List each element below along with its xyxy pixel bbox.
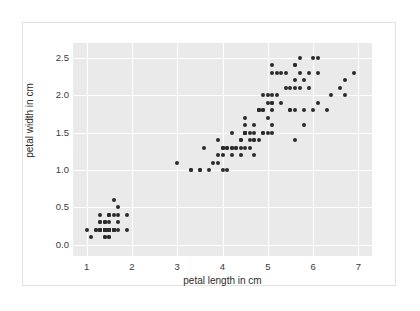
x-axis-tick-label: 3 [165,261,189,272]
data-point [343,78,347,82]
data-point [243,146,247,150]
gridline-vertical [313,43,314,256]
data-point [270,123,274,127]
data-point [230,146,234,150]
data-point [302,123,306,127]
data-point [252,153,256,157]
data-point [275,71,279,75]
data-point [107,228,111,232]
data-point [293,86,297,90]
y-axis-tick-label: 1.5 [43,128,69,138]
gridline-horizontal [73,95,372,96]
gridline-vertical [87,43,88,256]
data-point [198,168,202,172]
data-point [189,168,193,172]
data-point [243,116,247,120]
gridline-vertical [268,43,269,256]
plot-area [73,43,372,256]
y-axis-tick-labels: 0.00.51.01.52.02.5 [39,43,69,256]
data-point [125,228,129,232]
data-point [316,101,320,105]
data-point [279,101,283,105]
data-point [311,56,315,60]
data-point [288,86,292,90]
y-axis-label: petal width in cm [24,51,35,191]
data-point [230,131,234,135]
data-point [302,78,306,82]
data-point [225,168,229,172]
data-point [307,71,311,75]
data-point [103,235,107,239]
data-point [284,86,288,90]
data-point [270,93,274,97]
data-point [207,168,211,172]
data-point [302,108,306,112]
gridline-horizontal [73,245,372,246]
data-point [270,63,274,67]
data-point [103,228,107,232]
data-point [316,71,320,75]
data-point [98,228,102,232]
data-point [107,213,111,217]
data-point [248,146,252,150]
data-point [288,108,292,112]
gridline-horizontal [73,133,372,134]
data-point [239,138,243,142]
data-point [270,101,274,105]
data-point [175,161,179,165]
data-point [343,93,347,97]
data-point [270,131,274,135]
data-point [329,93,333,97]
x-axis-label: petal length in cm [73,275,372,286]
scatter-plot-figure: 0.00.51.01.52.02.5 1234567 petal length … [0,0,420,311]
data-point [116,205,120,209]
data-point [316,56,320,60]
data-point [112,198,116,202]
x-axis-tick-label: 2 [120,261,144,272]
data-point [298,86,302,90]
gridline-horizontal [73,58,372,59]
data-point [257,138,261,142]
data-point [311,108,315,112]
data-point [266,93,270,97]
y-axis-tick-label: 0.5 [43,202,69,212]
data-point [216,138,220,142]
gridline-vertical [177,43,178,256]
data-point [248,138,252,142]
data-point [221,146,225,150]
data-point [298,56,302,60]
data-point [252,123,256,127]
y-axis-tick-label: 2.5 [43,53,69,63]
data-point [85,228,89,232]
data-point [230,153,234,157]
x-axis-tick-label: 4 [211,261,235,272]
data-point [98,213,102,217]
data-point [239,153,243,157]
y-axis-tick-label: 0.0 [43,240,69,250]
data-point [248,131,252,135]
data-point [266,101,270,105]
gridline-vertical [358,43,359,256]
data-point [279,71,283,75]
data-point [89,235,93,239]
data-point [216,161,220,165]
data-point [298,71,302,75]
y-axis-tick-label: 2.0 [43,90,69,100]
data-point [107,235,111,239]
data-point [252,138,256,142]
data-point [103,220,107,224]
data-point [261,131,265,135]
data-point [325,108,329,112]
data-point [98,220,102,224]
x-axis-tick-label: 5 [256,261,280,272]
data-point [257,108,261,112]
data-point [221,153,225,157]
y-axis-tick-label: 1.0 [43,165,69,175]
data-point [293,138,297,142]
data-point [261,93,265,97]
data-point [112,228,116,232]
x-axis-tick-label: 1 [75,261,99,272]
data-point [211,161,215,165]
x-axis-tick-labels: 1234567 [73,261,372,275]
data-point [338,86,342,90]
